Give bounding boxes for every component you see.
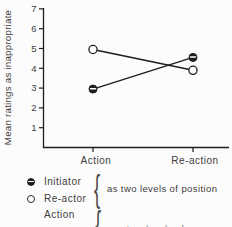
legend: Initiator Re-actor bbox=[27, 173, 86, 207]
x-tick-label: Re-action bbox=[171, 155, 218, 166]
legend-item-initiator: Initiator bbox=[27, 173, 86, 190]
y-tick-label: 5 bbox=[31, 43, 36, 54]
open-circle-marker bbox=[189, 66, 197, 74]
figure-panel: 1234567ActionRe-actionMean ratings as in… bbox=[0, 0, 232, 227]
legend-label-initiator: Initiator bbox=[44, 176, 81, 187]
y-tick-label: 4 bbox=[31, 63, 36, 74]
x-tick-label: Action bbox=[81, 155, 112, 166]
clipped-text: as two levels of bbox=[113, 223, 184, 227]
legend-item-reactor: Re-actor bbox=[27, 190, 86, 207]
legend-note: as two levels of position bbox=[107, 183, 217, 194]
marker-stripe bbox=[90, 88, 96, 90]
open-circle-marker bbox=[89, 45, 97, 53]
series-line-Re-actor bbox=[93, 49, 193, 70]
half-filled-circle-icon bbox=[27, 178, 35, 186]
marker-stripe bbox=[190, 56, 196, 58]
series-line-Initiator bbox=[93, 57, 193, 89]
brace-icon-clipped: { bbox=[95, 206, 101, 227]
y-tick-label: 7 bbox=[31, 3, 36, 14]
y-axis-label: Mean ratings as inappropriate bbox=[2, 9, 13, 145]
y-tick-label: 2 bbox=[31, 102, 36, 113]
y-tick-label: 6 bbox=[31, 23, 36, 34]
legend-label-reactor: Re-actor bbox=[44, 193, 86, 204]
y-tick-label: 3 bbox=[31, 82, 36, 93]
brace-icon: { bbox=[94, 170, 100, 207]
open-circle-icon bbox=[27, 195, 35, 203]
bottom-legend-label: Action bbox=[44, 209, 75, 220]
line-chart: 1234567ActionRe-actionMean ratings as in… bbox=[0, 0, 232, 170]
y-tick-label: 1 bbox=[31, 122, 36, 133]
